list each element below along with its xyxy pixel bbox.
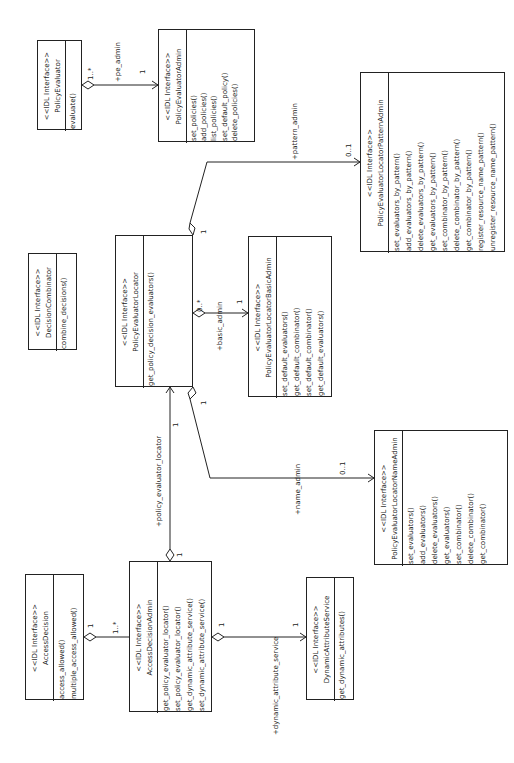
- role-label-dynamic-attribute-service: +dynamic_attribute_service: [272, 637, 280, 735]
- operation: delete_combinator_by_pattern(): [451, 75, 463, 251]
- operation: get_policy_decision_evaluators(): [146, 238, 156, 386]
- operation: get_evaluators(): [441, 433, 453, 564]
- multiplicity-label: 1: [200, 230, 208, 234]
- multiplicity-label: 1: [172, 423, 180, 427]
- operation: list_policies(): [209, 32, 219, 141]
- role-label-basic-admin: +basic_admin: [216, 302, 224, 351]
- operation: delete_combinator(): [465, 433, 477, 564]
- class-access-decision-admin: <<IDL Interface>> AccessDecisionAdmin ge…: [129, 561, 212, 712]
- operation: add_evaluators(): [417, 433, 429, 564]
- class-dynamic-attribute-service: <<IDL Interface>> DynamicAttributeServic…: [306, 577, 354, 700]
- operation: set_default_combinator(): [303, 239, 315, 396]
- operation: combine_decisions(): [59, 256, 69, 349]
- stereotype: <<IDL Interface>>: [42, 41, 53, 131]
- multiplicity-label: 1: [292, 623, 300, 627]
- operation: get_dynamic_attributes(): [337, 580, 347, 699]
- operation: add_evaluators_by_pattern(): [403, 75, 415, 251]
- stereotype: <<IDL Interface>>: [33, 254, 44, 351]
- stereotype: <<IDL Interface>>: [134, 562, 145, 713]
- operations-list: set_evaluators() add_evaluators() delete…: [403, 431, 491, 566]
- operation: access_allowed(): [56, 577, 68, 699]
- class-policy-evaluator-admin: <<IDL Interface>> PolicyEvaluatorAdmin s…: [158, 29, 255, 142]
- operations-list: set_evaluators_by_pattern() add_evaluato…: [389, 73, 501, 253]
- stereotype: <<IDL Interface>>: [163, 30, 174, 143]
- class-policy-evaluator: <<IDL Interface>> PolicyEvaluator evalua…: [37, 40, 82, 130]
- multiplicity-label: 1..*: [87, 68, 95, 80]
- operation: set_evaluators_by_pattern(): [391, 75, 403, 251]
- stereotype: <<IDL Interface>>: [365, 73, 376, 253]
- operation: get_combinator(): [477, 433, 489, 564]
- role-label-pattern-admin: +pattern_admin: [291, 103, 299, 160]
- class-name: DecisionCombinator: [44, 254, 55, 351]
- stereotype: <<IDL Interface>>: [379, 431, 390, 566]
- class-policy-evaluator-locator-name-admin: <<IDL Interface>> PolicyEvaluatorLocator…: [374, 430, 508, 565]
- operations-list: get_policy_evaluator_locator() set_polic…: [158, 562, 210, 713]
- operation: set_dynamic_attribute_service(): [196, 564, 208, 711]
- class-name: PolicyEvaluatorLocator: [131, 236, 142, 388]
- operation: get_combinator_by_pattern(): [463, 75, 475, 251]
- operations-list: get_policy_decision_evaluators(): [144, 236, 158, 388]
- multiplicity-label: 0..1: [345, 144, 353, 157]
- role-label-pe-admin: +pe_admin: [114, 42, 122, 82]
- class-decision-combinator: <<IDL Interface>> DecisionCombinator com…: [28, 253, 77, 350]
- stereotype: <<IDL Interface>>: [253, 237, 264, 398]
- class-name: AccessDecisionAdmin: [145, 562, 156, 713]
- multiplicity-label: 1: [200, 401, 208, 405]
- multiplicity-label: 0..1: [339, 462, 347, 475]
- operation: set_policies(): [189, 32, 199, 141]
- operation: get_dynamic_attribute_service(): [184, 564, 196, 711]
- operations-list: access_allowed() multiple_access_allowed…: [54, 575, 82, 701]
- stereotype: <<IDL Interface>>: [120, 236, 131, 388]
- class-name: DynamicAttributeService: [322, 578, 333, 701]
- class-policy-evaluator-locator-basic-admin: <<IDL Interface>> PolicyEvaluatorLocator…: [248, 236, 332, 397]
- class-name: PolicyEvaluatorLocatorNameAdmin: [390, 431, 401, 566]
- operation: add_policies(): [199, 32, 209, 141]
- multiplicity-label: 1: [87, 624, 95, 628]
- operation: get_policy_evaluator_locator(): [160, 564, 172, 711]
- operation: get_evaluators_by_pattern(): [427, 75, 439, 251]
- multiplicity-label: 1: [176, 553, 184, 557]
- stereotype: <<IDL Interface>>: [30, 575, 41, 701]
- class-name: PolicyEvaluator: [53, 41, 64, 131]
- role-label-policy-evaluator-locator: +policy_evaluator_locator: [155, 436, 163, 527]
- uml-diagram: <<IDL Interface>> PolicyEvaluator evalua…: [0, 0, 514, 763]
- class-name: PolicyEvaluatorLocatorPatternAdmin: [376, 73, 387, 253]
- operations-list: get_dynamic_attributes(): [335, 578, 349, 701]
- class-name: PolicyEvaluatorAdmin: [174, 30, 185, 143]
- operation: delete_policies(): [230, 32, 240, 141]
- operation: get_default_combinator(): [291, 239, 303, 396]
- operation: delete_evaluators(): [429, 433, 441, 564]
- operation: evaluate(): [68, 43, 78, 129]
- multiplicity-label: 1: [218, 623, 226, 627]
- operation: set_default_evaluators(): [279, 239, 291, 396]
- operation: set_policy_evaluator_locator(): [172, 564, 184, 711]
- operations-list: combine_decisions(): [57, 254, 71, 351]
- operation: set_combinator_by_pattern(): [439, 75, 451, 251]
- operations-list: evaluate(): [66, 41, 80, 131]
- multiplicity-label: 0..*: [196, 300, 204, 312]
- operation: unregister_resource_name_pattern(): [487, 75, 499, 251]
- operation: multiple_access_allowed(): [68, 577, 80, 699]
- operation: delete_evaluators_by_pattern(): [415, 75, 427, 251]
- multiplicity-label: 1: [139, 70, 147, 74]
- operations-list: set_default_evaluators() get_default_com…: [277, 237, 329, 398]
- multiplicity-label: 1: [236, 300, 244, 304]
- class-policy-evaluator-locator-pattern-admin: <<IDL Interface>> PolicyEvaluatorLocator…: [360, 72, 505, 252]
- operation: get_default_evaluators(): [315, 239, 327, 396]
- operation: set_default_policy(): [220, 32, 230, 141]
- class-policy-evaluator-locator: <<IDL Interface>> PolicyEvaluatorLocator…: [115, 235, 193, 387]
- operations-list: set_policies() add_policies() list_polic…: [187, 30, 242, 143]
- role-label-name-admin: +name_admin: [294, 464, 302, 515]
- class-name: AccessDecision: [41, 575, 52, 701]
- stereotype: <<IDL Interface>>: [311, 578, 322, 701]
- class-name: PolicyEvaluatorLocatorBasicAdmin: [264, 237, 275, 398]
- operation: set_combinator(): [453, 433, 465, 564]
- class-access-decision: <<IDL Interface>> AccessDecision access_…: [25, 574, 84, 700]
- multiplicity-label: 1..*: [112, 622, 120, 634]
- operation: set_evaluators(): [405, 433, 417, 564]
- operation: register_resource_name_pattern(): [475, 75, 487, 251]
